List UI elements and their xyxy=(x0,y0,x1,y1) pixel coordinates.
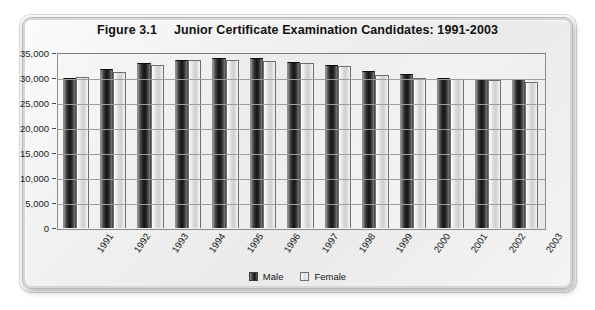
gridline xyxy=(58,129,545,130)
bar-male xyxy=(175,60,188,229)
x-axis-tick-label: 1994 xyxy=(206,231,227,255)
y-axis-tick-label: 5,000 xyxy=(25,198,49,209)
bar-female xyxy=(263,61,276,228)
bar-male xyxy=(63,78,76,228)
legend-swatch-female-icon xyxy=(300,272,309,281)
y-axis-tick-label: 15,000 xyxy=(20,148,49,159)
y-axis-tick-label: 30,000 xyxy=(20,73,49,84)
x-axis-tick-label: 1993 xyxy=(169,231,190,255)
y-axis-tick-mark xyxy=(52,203,56,204)
bar-female xyxy=(226,60,239,229)
y-axis-tick-label: 25,000 xyxy=(20,98,49,109)
bar-female xyxy=(413,78,426,228)
x-axis-tick-label: 1996 xyxy=(281,231,302,255)
gridline xyxy=(58,204,545,205)
gridline xyxy=(58,179,545,180)
y-axis-tick-mark xyxy=(52,103,56,104)
x-axis-tick-label: 1991 xyxy=(94,231,115,255)
gridline xyxy=(58,104,545,105)
y-axis-tick-label: 10,000 xyxy=(20,173,49,184)
y-axis-tick-mark xyxy=(52,228,56,229)
legend-item-female: Female xyxy=(300,271,346,282)
x-axis-tick-label: 2002 xyxy=(506,231,527,255)
bar-male xyxy=(250,58,263,229)
bar-female xyxy=(188,60,201,229)
y-axis-tick-mark xyxy=(52,53,56,54)
y-axis-tick-mark xyxy=(52,78,56,79)
x-axis-tick-label: 1998 xyxy=(356,231,377,255)
y-axis-tick-mark xyxy=(52,178,56,179)
gridline xyxy=(58,154,545,155)
bar-male xyxy=(212,58,225,229)
figure-number: Figure 3.1 xyxy=(97,23,157,37)
x-axis-tick-label: 1999 xyxy=(394,231,415,255)
y-axis-tick-label: 35,000 xyxy=(20,48,49,59)
page-title: Figure 3.1Junior Certificate Examination… xyxy=(0,23,595,37)
x-axis-tick-label: 1997 xyxy=(319,231,340,255)
bar-male xyxy=(437,78,450,229)
y-axis-tick-label: 0 xyxy=(44,223,49,234)
bar-female xyxy=(76,77,89,228)
legend-item-male: Male xyxy=(249,271,284,282)
y-axis-tick-mark xyxy=(52,128,56,129)
y-axis-tick-label: 20,000 xyxy=(20,123,49,134)
legend-swatch-male-icon xyxy=(249,272,258,281)
x-axis-tick-label: 2000 xyxy=(431,231,452,255)
chart-legend: Male Female xyxy=(0,271,595,282)
x-axis-tick-label: 1995 xyxy=(244,231,265,255)
legend-label-female: Female xyxy=(314,271,346,282)
legend-label-male: Male xyxy=(263,271,284,282)
x-axis: 1991199219931994199519961997199819992000… xyxy=(57,229,544,277)
figure-title-text: Junior Certificate Examination Candidate… xyxy=(174,23,498,37)
x-axis-tick-label: 1992 xyxy=(132,231,153,255)
gridline xyxy=(58,79,545,80)
y-axis: 05,00010,00015,00020,00025,00030,00035,0… xyxy=(0,0,57,240)
x-axis-tick-label: 2001 xyxy=(469,231,490,255)
y-axis-tick-mark xyxy=(52,153,56,154)
